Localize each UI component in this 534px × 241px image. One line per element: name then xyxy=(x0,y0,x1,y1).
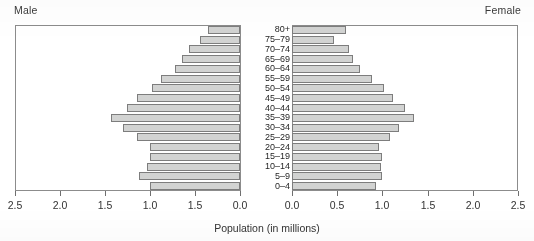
axis-tick xyxy=(428,191,429,196)
bar-female-55–59 xyxy=(292,75,372,83)
bar-female-65–69 xyxy=(292,55,353,63)
bar-male-40–44 xyxy=(127,104,240,112)
bar-male-65–69 xyxy=(182,55,240,63)
bar-male-10–14 xyxy=(147,163,240,171)
bar-female-80+ xyxy=(292,26,346,34)
axis-tick-label: 2.5 xyxy=(8,199,23,211)
axis-tick-label: 2.5 xyxy=(511,199,526,211)
age-group-label: 75–79 xyxy=(265,35,290,44)
axis-tick-label: 1.5 xyxy=(421,199,436,211)
age-group-label-column: 80+75–7970–7465–6960–6455–5950–5445–4940… xyxy=(242,25,290,190)
age-group-label: 70–74 xyxy=(265,45,290,54)
female-side-label: Female xyxy=(485,4,521,16)
axis-tick xyxy=(473,191,474,196)
bar-female-45–49 xyxy=(292,94,393,102)
bar-female-35–39 xyxy=(292,114,414,122)
age-group-label: 55–59 xyxy=(265,74,290,83)
age-group-label: 10–14 xyxy=(265,162,290,171)
axis-tick xyxy=(150,191,151,196)
bar-female-60–64 xyxy=(292,65,360,73)
bar-male-70–74 xyxy=(189,45,240,53)
age-group-label: 50–54 xyxy=(265,84,290,93)
axis-tick xyxy=(240,191,241,196)
axis-tick-label: 1.0 xyxy=(143,199,158,211)
axis-tick-label: 1.0 xyxy=(375,199,390,211)
age-group-label: 30–34 xyxy=(265,123,290,132)
age-group-label: 25–29 xyxy=(265,133,290,142)
axis-tick-label: 0.5 xyxy=(330,199,345,211)
axis-tick xyxy=(15,191,16,196)
axis-tick-label: 2.0 xyxy=(53,199,68,211)
bar-female-5–9 xyxy=(292,172,382,180)
bar-male-45–49 xyxy=(137,94,240,102)
bar-female-70–74 xyxy=(292,45,349,53)
axis-tick xyxy=(105,191,106,196)
bar-female-75–79 xyxy=(292,36,334,44)
bar-male-80+ xyxy=(208,26,240,34)
age-group-label: 5–9 xyxy=(275,172,290,181)
age-group-label: 15–19 xyxy=(265,152,290,161)
age-group-label: 45–49 xyxy=(265,94,290,103)
bar-female-25–29 xyxy=(292,133,390,141)
x-axis-title: Population (in millions) xyxy=(0,222,534,234)
age-group-label: 65–69 xyxy=(265,55,290,64)
bar-female-40–44 xyxy=(292,104,405,112)
bar-male-50–54 xyxy=(152,84,240,92)
bar-female-50–54 xyxy=(292,84,384,92)
bar-female-10–14 xyxy=(292,163,381,171)
bar-male-75–79 xyxy=(200,36,240,44)
bar-male-5–9 xyxy=(139,172,240,180)
bar-female-20–24 xyxy=(292,143,379,151)
age-group-label: 20–24 xyxy=(265,143,290,152)
bar-female-30–34 xyxy=(292,124,399,132)
bar-male-30–34 xyxy=(123,124,240,132)
axis-tick xyxy=(292,191,293,196)
axis-tick xyxy=(60,191,61,196)
bar-male-0–4 xyxy=(150,182,240,190)
axis-tick-label: 0.0 xyxy=(233,199,248,211)
axis-tick-label: 1.5 xyxy=(98,199,113,211)
bar-male-55–59 xyxy=(161,75,240,83)
age-group-label: 40–44 xyxy=(265,104,290,113)
bar-male-25–29 xyxy=(137,133,240,141)
bar-female-0–4 xyxy=(292,182,376,190)
bar-male-35–39 xyxy=(111,114,240,122)
axis-tick-label: 0.0 xyxy=(285,199,300,211)
age-group-label: 35–39 xyxy=(265,113,290,122)
axis-tick-label: 2.0 xyxy=(466,199,481,211)
age-group-label: 60–64 xyxy=(265,64,290,73)
axis-tick-label: 1.5 xyxy=(188,199,203,211)
bar-male-15–19 xyxy=(150,153,240,161)
male-side-label: Male xyxy=(14,4,38,16)
axis-tick xyxy=(195,191,196,196)
axis-tick xyxy=(382,191,383,196)
axis-tick xyxy=(518,191,519,196)
bar-male-20–24 xyxy=(150,143,240,151)
population-pyramid-chart: Male Female 80+75–7970–7465–6960–6455–59… xyxy=(0,0,534,241)
age-group-label: 80+ xyxy=(275,25,290,34)
axis-tick xyxy=(337,191,338,196)
bar-male-60–64 xyxy=(175,65,240,73)
bar-female-15–19 xyxy=(292,153,382,161)
age-group-label: 0–4 xyxy=(275,182,290,191)
